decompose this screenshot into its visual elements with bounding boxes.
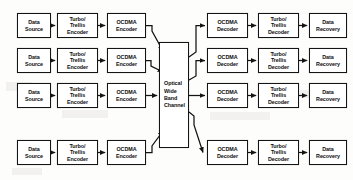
node-turbo-trellis-encoder-lane-2[interactable]: Turbo/ Trellis Encoder [57, 48, 98, 73]
node-label-line: Decoder [268, 99, 289, 105]
node-label-line: Encoder [116, 153, 137, 159]
node-label-line: Encoder [67, 156, 88, 162]
node-data-recovery-lane-1[interactable]: Data Recovery [309, 13, 347, 38]
node-label-line: Decoder [217, 61, 238, 67]
node-label-line: Source [25, 61, 43, 67]
node-turbo-trellis-encoder-lane-3[interactable]: Turbo/ Trellis Encoder [57, 83, 98, 108]
node-optical-wide-band-channel[interactable]: Optical Wide Band Channel [159, 42, 189, 148]
node-ocdma-decoder-lane-2[interactable]: OCDMA Decoder [207, 48, 248, 73]
channel-label-line: Optical [164, 80, 182, 87]
node-label-line: Source [25, 26, 43, 32]
node-data-recovery-lane-4[interactable]: Data Recovery [309, 140, 347, 165]
node-label-line: Decoder [217, 96, 238, 102]
node-data-source-lane-3[interactable]: Data Source [17, 83, 51, 108]
node-label-line: Encoder [67, 99, 88, 105]
node-label-line: Recovery [316, 61, 340, 67]
node-data-source-lane-4[interactable]: Data Source [17, 140, 51, 165]
node-label-line: Recovery [316, 153, 340, 159]
node-ocdma-decoder-lane-4[interactable]: OCDMA Decoder [207, 140, 248, 165]
node-ocdma-decoder-lane-1[interactable]: OCDMA Decoder [207, 13, 248, 38]
scan-artifact [210, 112, 270, 120]
node-ocdma-decoder-lane-3[interactable]: OCDMA Decoder [207, 83, 248, 108]
ocdma-block-diagram: Data Source Turbo/ Trellis Encoder OCDMA… [0, 0, 353, 180]
node-turbo-trellis-decoder-lane-2[interactable]: Turbo/ Trellis Decoder [258, 48, 299, 73]
channel-label-line: Wide [164, 88, 177, 95]
node-ocdma-encoder-lane-3[interactable]: OCDMA Encoder [107, 83, 146, 108]
scan-artifact [12, 168, 42, 175]
node-data-source-lane-1[interactable]: Data Source [17, 13, 51, 38]
node-ocdma-encoder-lane-2[interactable]: OCDMA Encoder [107, 48, 146, 73]
scan-artifact [62, 110, 108, 118]
node-turbo-trellis-encoder-lane-1[interactable]: Turbo/ Trellis Encoder [57, 13, 98, 38]
node-label-line: Recovery [316, 96, 340, 102]
channel-label-line: Channel [164, 102, 185, 109]
node-ocdma-encoder-lane-1[interactable]: OCDMA Encoder [107, 13, 146, 38]
node-turbo-trellis-decoder-lane-1[interactable]: Turbo/ Trellis Decoder [258, 13, 299, 38]
node-label-line: Decoder [268, 156, 289, 162]
node-data-recovery-lane-3[interactable]: Data Recovery [309, 83, 347, 108]
node-label-line: Encoder [116, 96, 137, 102]
node-label-line: Encoder [67, 64, 88, 70]
node-label-line: Decoder [217, 26, 238, 32]
node-turbo-trellis-decoder-lane-4[interactable]: Turbo/ Trellis Decoder [258, 140, 299, 165]
node-data-source-lane-2[interactable]: Data Source [17, 48, 51, 73]
node-ocdma-encoder-lane-4[interactable]: OCDMA Encoder [107, 140, 146, 165]
node-label-line: Decoder [268, 64, 289, 70]
node-label-line: Decoder [268, 29, 289, 35]
node-label-line: Source [25, 96, 43, 102]
node-turbo-trellis-decoder-lane-3[interactable]: Turbo/ Trellis Decoder [258, 83, 299, 108]
node-label-line: Source [25, 153, 43, 159]
node-label-line: Encoder [67, 29, 88, 35]
channel-label-line: Band [164, 95, 177, 102]
node-label-line: Decoder [217, 153, 238, 159]
node-label-line: Encoder [116, 26, 137, 32]
node-label-line: Recovery [316, 26, 340, 32]
node-label-line: Encoder [116, 61, 137, 67]
node-turbo-trellis-encoder-lane-4[interactable]: Turbo/ Trellis Encoder [57, 140, 98, 165]
node-data-recovery-lane-2[interactable]: Data Recovery [309, 48, 347, 73]
